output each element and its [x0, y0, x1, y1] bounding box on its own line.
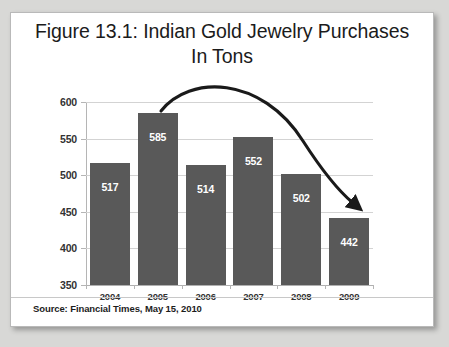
x-axis-tick-end: [373, 285, 374, 289]
bar-2009: 442: [329, 218, 369, 285]
x-axis-tick-0: [86, 285, 87, 289]
bar-value-label-2007: 552: [233, 155, 273, 167]
figure-page: Figure 13.1: Indian Gold Jewelry Purchas…: [0, 0, 449, 347]
bar-value-label-2008: 502: [281, 192, 321, 204]
figure-card: Figure 13.1: Indian Gold Jewelry Purchas…: [10, 12, 434, 327]
y-axis-label-450: 450: [33, 206, 77, 218]
gridline-600: [86, 102, 373, 103]
y-axis-label-600: 600: [33, 96, 77, 108]
source-note: Source: Financial Times, May 15, 2010: [33, 303, 202, 314]
y-axis-tick-600: [81, 102, 86, 103]
bar-2007: 552: [233, 137, 273, 285]
bar-value-label-2009: 442: [329, 236, 369, 248]
bar-2005: 585: [138, 113, 178, 285]
y-axis-label-500: 500: [33, 169, 77, 181]
y-axis-label-550: 550: [33, 133, 77, 145]
bar-2004: 517: [90, 163, 130, 285]
x-axis-tick-1: [134, 285, 135, 289]
bar-chart: 517585514552502442 350400450500550600200…: [11, 13, 434, 327]
bar-2008: 502: [281, 174, 321, 285]
plot-area: 517585514552502442: [86, 102, 373, 285]
bar-value-label-2004: 517: [90, 181, 130, 193]
bar-value-label-2006: 514: [186, 183, 226, 195]
x-axis-tick-3: [230, 285, 231, 289]
bar-2006: 514: [186, 165, 226, 285]
x-axis-tick-4: [277, 285, 278, 289]
bar-value-label-2005: 585: [138, 131, 178, 143]
y-axis-tick-400: [81, 248, 86, 249]
y-axis-tick-450: [81, 212, 86, 213]
y-axis-tick-550: [81, 139, 86, 140]
gridline-550: [86, 139, 373, 140]
y-axis-label-400: 400: [33, 242, 77, 254]
y-axis-label-350: 350: [33, 279, 77, 291]
x-axis-tick-5: [325, 285, 326, 289]
y-axis-tick-500: [81, 175, 86, 176]
x-axis-tick-2: [182, 285, 183, 289]
source-divider: [11, 297, 434, 298]
